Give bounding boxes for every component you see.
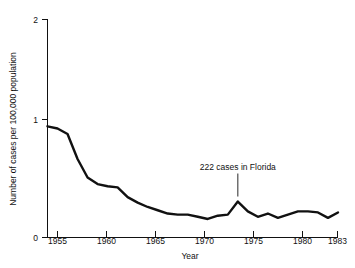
y-axis-title: Number of cases per 100,000 population — [8, 52, 18, 206]
x-tick-label-1983: 1983 — [328, 236, 347, 246]
x-tick-label-1960: 1960 — [97, 236, 116, 246]
x-tick-label-1980: 1980 — [293, 236, 312, 246]
x-tick-label-1975: 1975 — [244, 236, 263, 246]
annotation-label-florida: 222 cases in Florida — [200, 162, 276, 172]
line-chart-svg: 2 1 0 1955 1960 1965 1970 1975 1980 1983… — [0, 0, 355, 268]
x-tick-label-1970: 1970 — [195, 236, 214, 246]
x-axis-title: Year — [181, 251, 198, 261]
x-tick-label-1965: 1965 — [146, 236, 165, 246]
y-tick-label-1: 1 — [33, 115, 38, 125]
y-tick-label-0: 0 — [33, 233, 38, 243]
y-tick-label-2: 2 — [33, 15, 38, 25]
chart-background — [0, 0, 355, 268]
x-tick-label-1955: 1955 — [48, 236, 67, 246]
chart-container: 2 1 0 1955 1960 1965 1970 1975 1980 1983… — [0, 0, 355, 268]
